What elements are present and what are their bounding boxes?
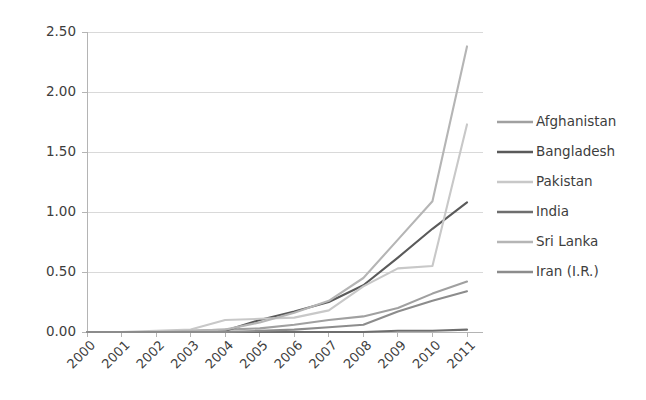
series-lines-group (87, 46, 467, 332)
legend-label-afghanistan[interactable]: Afghanistan (536, 113, 616, 129)
legend-label-india[interactable]: India (536, 203, 569, 219)
y-tick-label: 2.00 (46, 83, 76, 99)
chart-canvas: 0.000.501.001.502.002.50 200020012002200… (0, 0, 646, 400)
x-tick-label: 2002 (133, 338, 167, 372)
x-tick-label: 2008 (340, 338, 374, 372)
series-line-sri-lanka (87, 46, 467, 332)
y-axis-group (82, 32, 87, 332)
x-tick-label: 2004 (202, 338, 236, 372)
series-line-pakistan (87, 124, 467, 332)
legend-label-bangladesh[interactable]: Bangladesh (536, 143, 615, 159)
x-tick-label: 2000 (64, 338, 98, 372)
x-tick-label: 2009 (375, 338, 409, 372)
x-tick-label: 2011 (444, 338, 478, 372)
line-chart: 0.000.501.001.502.002.50 200020012002200… (0, 0, 646, 400)
x-tick-label: 2010 (410, 338, 444, 372)
y-tick-label: 2.50 (46, 23, 76, 39)
x-tick-label: 2005 (237, 338, 271, 372)
legend-label-sri-lanka[interactable]: Sri Lanka (536, 233, 598, 249)
x-tick-label: 2007 (306, 338, 340, 372)
gridlines-group (87, 32, 483, 332)
y-tick-label: 0.00 (46, 323, 76, 339)
y-tick-label: 1.00 (46, 203, 76, 219)
legend-group: AfghanistanBangladeshPakistanIndiaSri La… (497, 113, 616, 279)
y-tick-labels-group: 0.000.501.001.502.002.50 (46, 23, 76, 339)
y-tick-label: 0.50 (46, 263, 76, 279)
legend-label-pakistan[interactable]: Pakistan (536, 173, 593, 189)
x-tick-label: 2001 (99, 338, 133, 372)
x-tick-labels-group: 2000200120022003200420052006200720082009… (64, 338, 478, 372)
x-tick-label: 2003 (168, 338, 202, 372)
x-tick-label: 2006 (271, 338, 305, 372)
legend-label-iran-i-r[interactable]: Iran (I.R.) (536, 263, 599, 279)
y-tick-label: 1.50 (46, 143, 76, 159)
